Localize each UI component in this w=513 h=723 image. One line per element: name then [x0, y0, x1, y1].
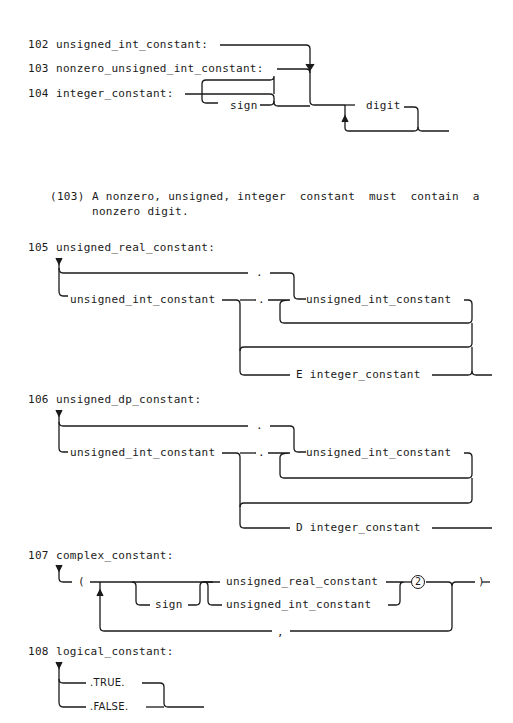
rule-103-name: nonzero_unsigned_int_constant:: [56, 63, 264, 75]
term-true: .TRUE.: [90, 677, 125, 689]
term-dot: .: [256, 420, 263, 432]
term-unsigned-int-constant: unsigned_int_constant: [226, 599, 371, 611]
note-line-1: A nonzero, unsigned, integer constant mu…: [92, 191, 480, 203]
term-unsigned-int-constant: unsigned_int_constant: [306, 294, 451, 306]
term-comma: ,: [277, 627, 284, 639]
note-ref: (103): [50, 191, 85, 203]
rule-102-name: unsigned_int_constant:: [56, 39, 208, 51]
term-false: .FALSE.: [90, 701, 128, 713]
term-dot: .: [258, 294, 265, 306]
rule-106-number: 106: [28, 394, 49, 406]
term-unsigned-int-constant: unsigned_int_constant: [306, 447, 451, 459]
note-line-2: nonzero digit.: [92, 206, 189, 218]
rule-104-name: integer_constant:: [56, 88, 174, 100]
term-exponent: E integer_constant: [296, 369, 421, 381]
rule-105-name: unsigned_real_constant:: [56, 242, 215, 254]
term-unsigned-real-constant: unsigned_real_constant: [226, 576, 378, 588]
rule-105-number: 105: [28, 242, 49, 254]
rule-107-name: complex_constant:: [56, 550, 174, 562]
term-dot: .: [256, 267, 263, 279]
footnote-circle: 2: [411, 575, 425, 589]
term-rparen: ): [478, 576, 485, 588]
term-sign: sign: [155, 599, 183, 611]
rule-102-number: 102: [28, 39, 49, 51]
term-dot: .: [258, 447, 265, 459]
rule-108-name: logical_constant:: [56, 646, 174, 658]
rule-106-name: unsigned_dp_constant:: [56, 394, 201, 406]
term-unsigned-int-constant: unsigned_int_constant: [70, 294, 215, 306]
term-sign: sign: [228, 100, 260, 112]
rule-103-number: 103: [28, 63, 49, 75]
rule-104-number: 104: [28, 88, 49, 100]
term-lparen: (: [78, 576, 85, 588]
rule-107-number: 107: [28, 550, 49, 562]
term-unsigned-int-constant: unsigned_int_constant: [70, 447, 215, 459]
rule-108-number: 108: [28, 646, 49, 658]
term-digit: digit: [364, 100, 403, 112]
term-exponent: D integer_constant: [296, 522, 421, 534]
